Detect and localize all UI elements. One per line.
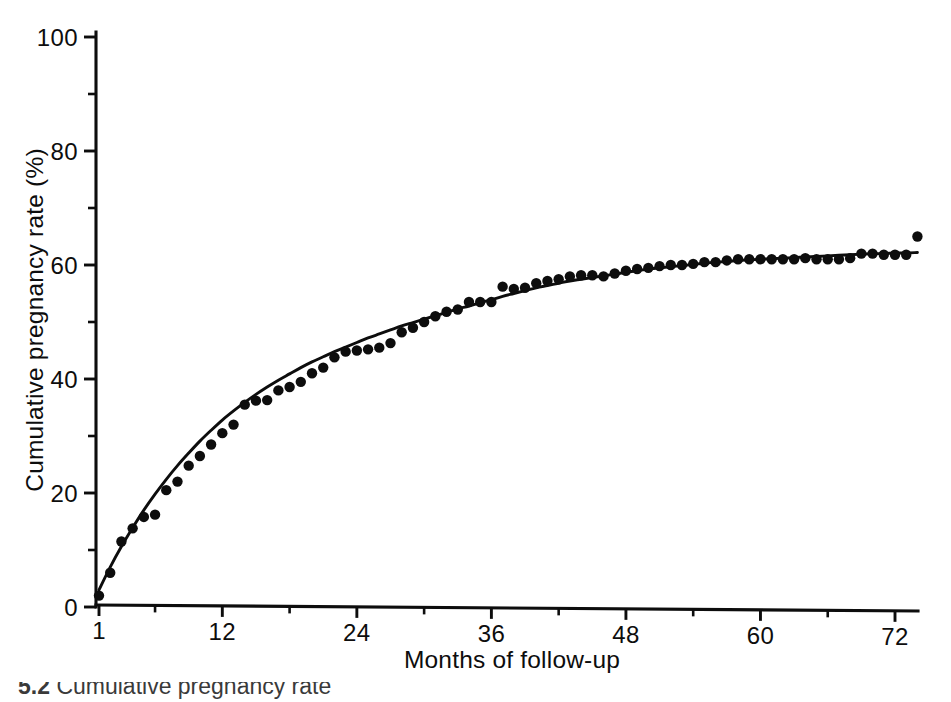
data-point [867,248,877,258]
x-axis-tick-labels: 1122436486072 [92,617,909,650]
scatter-points-group [94,231,923,601]
data-point [172,476,182,486]
data-point [419,317,429,327]
data-point [318,362,328,372]
y-tick-label: 80 [51,138,79,165]
data-point [542,276,552,286]
data-point [296,377,306,387]
data-point [94,590,104,600]
data-point [733,254,743,264]
data-point [497,281,507,291]
figure-caption-label: 5.2 [18,682,50,699]
data-point [811,254,821,264]
data-point [430,311,440,321]
data-point [744,254,754,264]
x-axis-line [96,605,918,611]
data-point [677,260,687,270]
data-point [766,254,776,264]
data-point [912,231,922,241]
data-point [464,297,474,307]
data-point [509,284,519,294]
data-point [441,307,451,317]
figure-caption: 5.2 Cumulative pregnancy rate [18,682,331,700]
data-point [688,259,698,269]
data-point [845,253,855,263]
y-tick-label: 20 [51,480,79,507]
data-point [576,270,586,280]
data-point [284,382,294,392]
y-tick-label: 40 [51,366,79,393]
figure-caption-strip: 5.2 Cumulative pregnancy rate [0,682,951,702]
data-point [161,485,171,495]
x-tick-label: 72 [881,623,909,650]
data-point [363,344,373,354]
data-point [453,304,463,314]
data-point [150,509,160,519]
x-tick-label: 60 [747,622,775,649]
data-point [217,428,227,438]
data-point [531,278,541,288]
x-tick-label: 12 [209,618,237,645]
data-point [823,254,833,264]
data-point [105,568,115,578]
figure-caption-body: Cumulative pregnancy rate [56,682,331,699]
data-point [329,352,339,362]
data-point [262,395,272,405]
data-point [385,338,395,348]
data-point [565,271,575,281]
data-point [789,254,799,264]
data-point [654,261,664,271]
data-point [879,250,889,260]
data-point [553,274,563,284]
data-point [800,253,810,263]
data-point [206,439,216,449]
data-point [666,260,676,270]
data-point [116,536,126,546]
data-point [307,368,317,378]
data-point [352,345,362,355]
data-point [183,460,193,470]
data-point [273,385,283,395]
x-tick-label: 36 [478,620,506,647]
data-point [755,254,765,264]
data-point [890,250,900,260]
x-axis-title: Months of follow-up [404,646,620,673]
data-point [228,419,238,429]
data-point [643,263,653,273]
data-point [340,346,350,356]
y-tick-label: 100 [37,24,78,51]
data-point [621,266,631,276]
data-point [195,451,205,461]
data-point [632,264,642,274]
data-point [486,297,496,307]
data-point [139,512,149,522]
data-point [251,395,261,405]
y-axis-title: Cumulative pregnancy rate (%) [21,148,48,492]
data-point [610,268,620,278]
data-point [397,327,407,337]
data-point [856,248,866,258]
data-point [710,257,720,267]
x-tick-label: 24 [343,619,371,646]
x-tick-label: 48 [612,621,640,648]
data-point [240,399,250,409]
data-point [778,254,788,264]
data-point [127,523,137,533]
data-point [374,342,384,352]
x-tick-label: 1 [92,617,106,644]
data-point [520,283,530,293]
data-point [475,297,485,307]
fitted-curve [99,252,917,589]
cumulative-pregnancy-rate-chart: 020406080100 1122436486072 Months of fol… [0,0,951,702]
y-tick-label: 60 [51,252,79,279]
data-point [598,271,608,281]
data-point [834,254,844,264]
data-point [699,257,709,267]
y-tick-label: 0 [64,594,78,621]
x-axis-group: 1122436486072 [92,605,918,650]
data-point [722,255,732,265]
data-point [408,323,418,333]
data-point [587,270,597,280]
figure-container: 020406080100 1122436486072 Months of fol… [0,0,951,702]
data-point [901,250,911,260]
